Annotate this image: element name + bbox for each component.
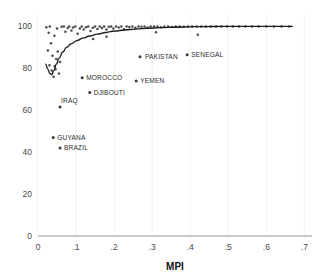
country-label: GUYANA xyxy=(57,134,86,141)
y-tick-labels: 020406080100 xyxy=(18,21,32,241)
gridlines xyxy=(38,14,304,236)
annotated-point-marker xyxy=(52,136,55,139)
scatter-point xyxy=(87,25,90,28)
y-tick-label: 60 xyxy=(23,105,33,115)
country-label: MOROCCO xyxy=(86,74,122,81)
scatter-point xyxy=(47,31,50,34)
scatter-point xyxy=(68,25,71,28)
country-label: DJIBOUTI xyxy=(94,89,125,96)
scatter-point xyxy=(98,25,101,28)
chart-container: 020406080100 0.1.2.3.4.5.6.7 PAKISTANSEN… xyxy=(0,0,322,278)
scatter-point xyxy=(45,26,48,29)
scatter-point xyxy=(72,26,75,29)
scatter-point xyxy=(51,54,54,57)
scatter-point xyxy=(52,75,55,78)
y-tick-label: 40 xyxy=(23,147,33,157)
fit-curve xyxy=(46,26,293,74)
scatter-point xyxy=(58,72,61,75)
x-tick-label: .1 xyxy=(73,242,80,252)
scatter-point xyxy=(94,25,97,28)
x-axis-title: MPI xyxy=(166,261,184,272)
scatter-point xyxy=(140,26,143,29)
scatter-point xyxy=(108,26,111,29)
country-label: BRAZIL xyxy=(64,144,88,151)
x-tick-label: 0 xyxy=(36,242,41,252)
annotated-point-marker xyxy=(81,76,84,79)
scatter-point xyxy=(60,26,63,29)
scatter-point xyxy=(81,25,84,28)
scatter-point xyxy=(128,26,131,29)
scatter-point xyxy=(197,34,200,37)
scatter-point xyxy=(115,25,118,28)
x-tick-label: .4 xyxy=(187,242,194,252)
annotated-point-marker xyxy=(138,55,141,58)
scatter-point xyxy=(50,42,53,45)
scatter-point xyxy=(82,28,85,31)
y-tick-label: 100 xyxy=(18,21,32,31)
scatter-points xyxy=(45,25,290,78)
y-tick-label: 20 xyxy=(23,189,33,199)
scatter-point xyxy=(131,25,134,28)
scatter-point xyxy=(70,29,73,32)
annotated-point-marker xyxy=(186,53,189,56)
scatter-point xyxy=(63,25,66,28)
scatter-point xyxy=(105,36,108,39)
country-annotations: PAKISTANSENEGALMOROCCOYEMENDJIBOUTIIRAQG… xyxy=(52,51,224,151)
scatter-point xyxy=(85,26,88,29)
scatter-point xyxy=(56,27,59,30)
y-tick-label: 80 xyxy=(23,63,33,73)
country-label: YEMEN xyxy=(140,77,164,84)
x-tick-label: .7 xyxy=(301,242,308,252)
annotated-point-marker xyxy=(135,79,138,82)
scatter-point xyxy=(105,28,108,31)
scatter-point xyxy=(92,26,95,29)
country-label: IRAQ xyxy=(61,97,78,105)
x-axis-title-text: MPI xyxy=(166,261,184,272)
annotated-point-marker xyxy=(59,106,62,109)
chart-title-clipped xyxy=(0,0,322,9)
y-tick-label: 0 xyxy=(27,231,32,241)
x-tick-label: .3 xyxy=(149,242,156,252)
annotated-point-marker xyxy=(59,146,62,149)
scatter-point xyxy=(48,64,51,67)
scatter-point xyxy=(47,49,50,52)
scatter-point xyxy=(120,25,123,28)
scatter-point xyxy=(76,32,79,35)
scatter-point xyxy=(143,25,146,28)
scatter-point xyxy=(74,25,77,28)
x-tick-label: .6 xyxy=(263,242,270,252)
x-tick-labels: 0.1.2.3.4.5.6.7 xyxy=(36,242,309,252)
scatter-point xyxy=(92,38,95,41)
scatter-point xyxy=(125,25,128,28)
scatter-point xyxy=(53,35,56,38)
scatter-point xyxy=(96,28,99,31)
scatter-point xyxy=(155,31,158,34)
fitted-curve-path xyxy=(46,26,293,74)
scatter-point xyxy=(149,25,152,28)
scatter-point xyxy=(117,26,120,29)
scatter-point xyxy=(49,25,52,28)
scatter-plot: 020406080100 0.1.2.3.4.5.6.7 PAKISTANSEN… xyxy=(0,0,322,278)
scatter-point xyxy=(55,58,58,61)
scatter-point xyxy=(103,25,106,28)
x-tick-label: .2 xyxy=(111,242,118,252)
scatter-point xyxy=(112,27,115,30)
scatter-point xyxy=(89,30,92,33)
country-label: SENEGAL xyxy=(191,51,223,58)
scatter-point xyxy=(110,25,113,28)
x-tick-label: .5 xyxy=(225,242,232,252)
annotated-point-marker xyxy=(88,91,91,94)
scatter-point xyxy=(137,25,140,28)
scatter-point xyxy=(101,27,104,30)
scatter-point xyxy=(64,30,67,32)
scatter-point xyxy=(79,27,82,30)
scatter-point xyxy=(57,50,60,53)
scatter-point xyxy=(59,61,62,64)
country-label: PAKISTAN xyxy=(145,53,178,60)
